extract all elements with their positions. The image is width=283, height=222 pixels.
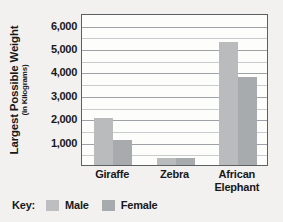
legend-label-female: Female [121,199,158,211]
legend-item-female: Female [102,199,158,211]
y-axis-tick-label: 2,000 [51,113,77,125]
bar-female-giraffe [113,140,132,165]
y-axis-title: Largest Possible Weight (in Kilograms) [2,14,36,166]
y-axis-tick-label: 3,000 [51,90,77,102]
y-axis-tick-labels: 1,0002,0003,0004,0005,0006,000 [36,14,80,166]
bars-layer [82,15,267,165]
y-axis-tick-label: 6,000 [51,20,77,32]
bar-chart-figure: Largest Possible Weight (in Kilograms) 1… [0,0,283,222]
x-axis-tick-label-line: Zebra [160,168,189,181]
legend-swatch-male [46,200,59,211]
legend-item-male: Male [46,199,89,211]
legend-label-male: Male [65,199,89,211]
bar-female-zebra [176,158,195,165]
legend: Key: MaleFemale [12,197,170,213]
bar-female-african-elephant [238,77,257,165]
bar-male-african-elephant [219,42,238,165]
bar-male-zebra [157,158,176,165]
x-axis-tick-label: Zebra [160,168,189,181]
y-axis-title-units: (in Kilograms) [20,26,30,155]
y-axis-title-text: Largest Possible Weight (in Kilograms) [8,26,30,155]
plot-area [81,14,268,166]
legend-title: Key: [12,199,35,211]
bar-male-giraffe [94,118,113,165]
x-axis-tick-label-line: Giraffe [95,168,129,181]
y-axis-tick-label: 5,000 [51,43,77,55]
x-axis-tick-label-line: Elephant [214,181,259,194]
y-axis-title-main: Largest Possible Weight [8,26,20,155]
x-axis-tick-labels: GiraffeZebraAfricanElephant [81,168,268,198]
y-axis-tick-label: 1,000 [51,137,77,149]
legend-swatch-female [102,200,115,211]
x-axis-tick-label: Giraffe [95,168,129,181]
x-axis-tick-label: AfricanElephant [214,168,259,193]
x-axis-tick-label-line: African [214,168,259,181]
y-axis-tick-label: 4,000 [51,66,77,78]
